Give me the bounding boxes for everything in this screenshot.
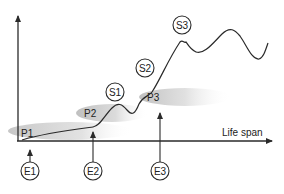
life-span-diagram: Life span P1 P2 P3 S1 S2 S3 E1 E2 E3 xyxy=(0,0,284,194)
event-label-e3: E3 xyxy=(154,166,167,177)
stage-label-s2: S2 xyxy=(139,63,152,74)
stage-label-s3: S3 xyxy=(176,20,189,31)
stage-s2: S2 xyxy=(136,59,154,77)
phase-label-p2: P2 xyxy=(84,108,97,119)
stage-s1: S1 xyxy=(106,83,124,101)
x-axis-label: Life span xyxy=(222,127,263,138)
phase-label-p1: P1 xyxy=(21,128,34,139)
event-e2: E2 xyxy=(84,162,102,180)
event-e3: E3 xyxy=(151,162,169,180)
event-e1: E1 xyxy=(21,162,39,180)
stage-label-s1: S1 xyxy=(109,87,122,98)
event-label-e2: E2 xyxy=(87,166,100,177)
stage-s3: S3 xyxy=(173,16,191,34)
phase-label-p3: P3 xyxy=(147,92,160,103)
event-label-e1: E1 xyxy=(24,166,37,177)
